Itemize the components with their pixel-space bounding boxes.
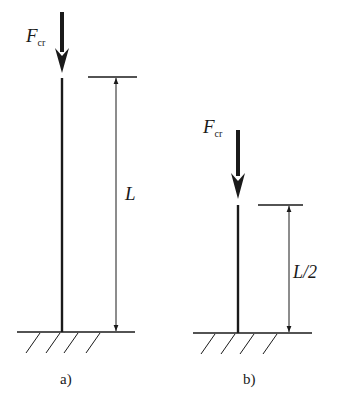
length-label-b: L/2 bbox=[292, 262, 317, 282]
panel-a: Fcr L a) bbox=[17, 12, 137, 388]
force-label-a: Fcr bbox=[25, 25, 46, 48]
force-label-b: Fcr bbox=[202, 116, 223, 139]
force-arrow-a bbox=[55, 12, 69, 73]
dimension-a bbox=[88, 77, 137, 331]
caption-a: a) bbox=[60, 371, 72, 388]
panel-b: Fcr L/2 b) bbox=[193, 116, 317, 388]
fixed-support-a bbox=[17, 332, 135, 353]
fixed-support-b bbox=[193, 333, 312, 354]
caption-b: b) bbox=[243, 371, 256, 388]
force-arrow-b bbox=[231, 130, 245, 199]
length-label-a: L bbox=[124, 183, 136, 204]
buckling-diagram: Fcr L a) Fcr bbox=[0, 0, 339, 406]
